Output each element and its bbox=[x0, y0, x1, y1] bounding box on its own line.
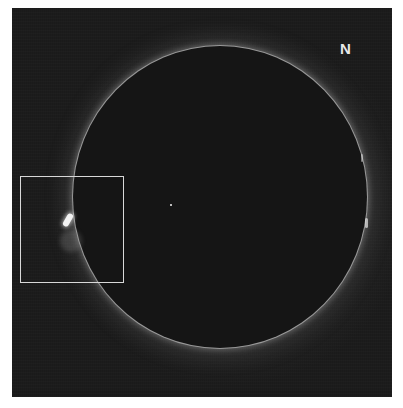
disk-feature-dot bbox=[170, 204, 172, 206]
right-limb-feature bbox=[365, 218, 368, 228]
highlight-box bbox=[20, 176, 124, 283]
solar-image-frame: N bbox=[12, 8, 392, 397]
right-limb-feature-upper bbox=[361, 154, 363, 162]
north-label: N bbox=[340, 40, 351, 57]
